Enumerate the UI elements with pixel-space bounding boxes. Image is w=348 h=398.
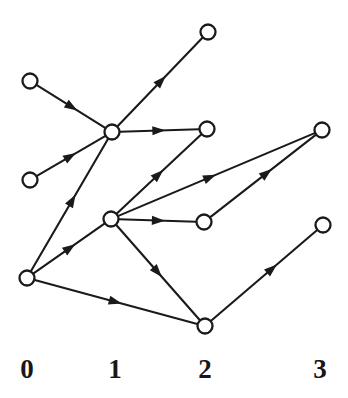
graph-node[interactable] <box>200 122 215 137</box>
graph-node[interactable] <box>105 125 120 140</box>
edge-arrowhead-icon <box>152 126 165 135</box>
edge-arrowhead-icon <box>65 195 76 209</box>
graph-edge <box>211 230 317 321</box>
graph-node[interactable] <box>23 74 38 89</box>
edge-arrowhead-icon <box>63 153 77 164</box>
graph-figure: 0123 <box>0 0 348 398</box>
edge-arrowhead-icon <box>202 175 216 184</box>
graph-node[interactable] <box>315 123 330 138</box>
edge-arrowhead-icon <box>108 296 122 305</box>
directed-graph-canvas: 0123 <box>0 0 348 398</box>
layer-label-1: 1 <box>108 354 122 384</box>
graph-node[interactable] <box>104 212 119 227</box>
graph-node[interactable] <box>201 25 216 40</box>
edge-layer <box>31 38 317 324</box>
graph-node[interactable] <box>20 271 35 286</box>
graph-node[interactable] <box>197 215 212 230</box>
edge-arrowhead-icon <box>62 244 75 255</box>
layer-label-2: 2 <box>198 354 212 384</box>
edge-arrowhead-icon <box>64 100 77 111</box>
graph-node[interactable] <box>316 218 331 233</box>
graph-edge <box>118 133 314 216</box>
edge-arrowhead-icon <box>152 216 165 225</box>
layer-label-3: 3 <box>313 354 327 384</box>
graph-node[interactable] <box>23 173 38 188</box>
layer-label-0: 0 <box>20 354 34 384</box>
layer-label-group: 0123 <box>20 354 327 384</box>
node-layer <box>20 25 331 334</box>
graph-node[interactable] <box>198 319 213 334</box>
